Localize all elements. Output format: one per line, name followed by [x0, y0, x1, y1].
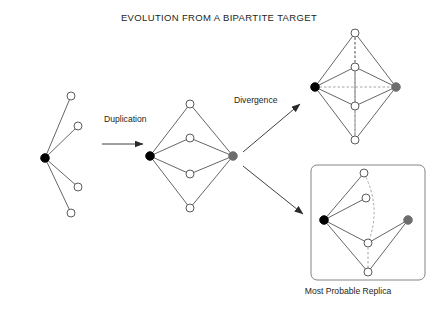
figure-root: EVOLUTION FROM A BIPARTITE TARGET Duplic… [0, 0, 438, 314]
edge-rR-r4 [368, 220, 408, 272]
edge-hub-t1 [45, 96, 71, 158]
nodes-layer [41, 29, 413, 276]
replica-arrow [243, 166, 303, 214]
node-duplicated-bipartite-d4 [186, 204, 194, 212]
node-bipartite-target-t4 [67, 209, 75, 217]
node-divergent-complete-cR [392, 83, 401, 92]
edge-dR-d3 [190, 156, 233, 174]
edge-cR-c2 [355, 67, 396, 87]
edge-hub-t2 [45, 126, 78, 158]
node-most-probable-replica-r3 [364, 239, 372, 247]
divergence-label: Divergence [234, 95, 277, 105]
node-most-probable-replica-r2 [362, 194, 370, 202]
node-bipartite-target-t2 [74, 122, 82, 130]
most-probable-replica-caption: Most Probable Replica [288, 286, 408, 296]
edge-dL-d3 [150, 156, 190, 174]
edge-dR-d1 [190, 104, 233, 156]
edge-cR-c3 [355, 87, 396, 106]
node-duplicated-bipartite-dL [146, 152, 155, 161]
edge-rL-r2 [324, 198, 366, 220]
edge-dL-d1 [150, 104, 190, 156]
edge-rL-r1 [324, 173, 364, 220]
edge-cR-c4 [355, 87, 396, 140]
edge-dR-d4 [190, 156, 233, 208]
node-duplicated-bipartite-d3 [186, 170, 194, 178]
edge-dR-d2 [190, 138, 233, 156]
node-bipartite-target-t3 [74, 183, 82, 191]
edge-rL-r4 [324, 220, 368, 272]
node-bipartite-target-t1 [67, 92, 75, 100]
edge-cL-c1 [315, 33, 355, 87]
node-divergent-complete-cL [311, 83, 320, 92]
node-most-probable-replica-rL [320, 216, 329, 225]
edge-cR-c1 [355, 33, 396, 87]
node-duplicated-bipartite-d1 [186, 100, 194, 108]
node-most-probable-replica-rR [404, 216, 413, 225]
node-most-probable-replica-r1 [360, 169, 368, 177]
edge-cL-c4 [315, 87, 355, 140]
node-divergent-complete-c2 [351, 63, 359, 71]
diagram-canvas [0, 0, 438, 314]
node-duplicated-bipartite-d2 [186, 134, 194, 142]
divergence-arrow [243, 104, 300, 152]
node-duplicated-bipartite-dR [229, 152, 238, 161]
node-divergent-complete-c3 [351, 102, 359, 110]
node-bipartite-target-hub [41, 154, 50, 163]
edge-dL-d4 [150, 156, 190, 208]
edge-rL-r3 [324, 220, 368, 243]
edge-hub-t3 [45, 158, 78, 187]
node-most-probable-replica-r4 [364, 268, 372, 276]
edge-cL-c3 [315, 87, 355, 106]
edge-dL-d2 [150, 138, 190, 156]
edge-r1-r3 [364, 173, 374, 243]
node-divergent-complete-c4 [351, 136, 359, 144]
edge-hub-t4 [45, 158, 71, 213]
node-divergent-complete-c1 [351, 29, 359, 37]
edge-cL-c2 [315, 67, 355, 87]
edge-rR-r3 [368, 220, 408, 243]
duplication-label: Duplication [104, 114, 147, 124]
